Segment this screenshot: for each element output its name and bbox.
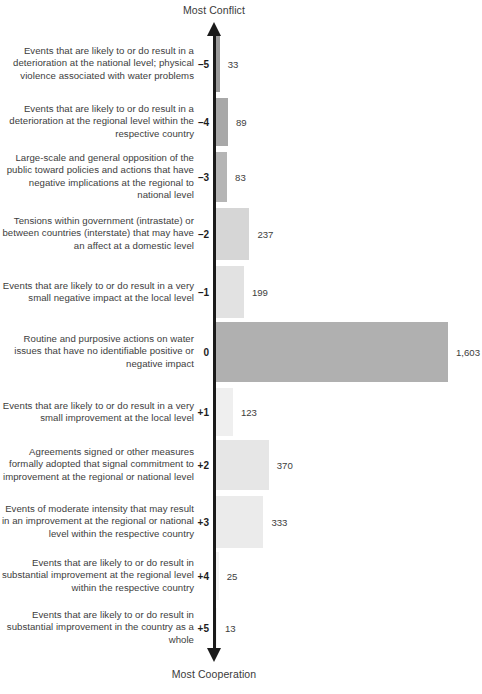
category-description: Tensions within government (intrastate) …: [0, 215, 194, 252]
arrow-up-icon: [207, 22, 221, 36]
bar-value-label: 199: [252, 287, 268, 298]
axis-tick-label: –1: [191, 287, 209, 298]
category-description: Events that are likely to or do result i…: [0, 45, 194, 82]
category-description: Events that are likely to or do result i…: [0, 557, 194, 594]
bar-segment: [215, 552, 219, 600]
category-description: Large-scale and general opposition of th…: [0, 152, 194, 202]
bar-value-label: 89: [236, 117, 247, 128]
bar-segment: [215, 208, 249, 260]
category-description: Events that are likely to or do result i…: [0, 280, 194, 305]
vertical-axis-line: [213, 34, 216, 654]
bar-segment: [215, 98, 228, 146]
bar-value-label: 370: [277, 460, 293, 471]
arrow-down-icon: [207, 648, 221, 662]
bar-segment: [215, 440, 269, 490]
axis-tick-label: +3: [191, 517, 209, 528]
axis-tick-label: +1: [191, 407, 209, 418]
bar-value-label: 123: [241, 407, 257, 418]
bar-segment: [215, 388, 233, 436]
bar-segment: [215, 36, 220, 92]
bar-value-label: 33: [228, 59, 239, 70]
category-description: Events that are likely to or do result i…: [0, 400, 194, 425]
axis-tick-label: +2: [191, 460, 209, 471]
category-description: Agreements signed or other measures form…: [0, 446, 194, 483]
category-description: Events of moderate intensity that may re…: [0, 503, 194, 540]
bar-value-label: 25: [227, 571, 238, 582]
axis-tick-label: –2: [191, 229, 209, 240]
category-description: Routine and purposive actions on water i…: [0, 333, 194, 370]
axis-tick-label: +5: [191, 623, 209, 634]
bar-segment: [215, 496, 263, 548]
bar-segment: [215, 152, 227, 202]
category-description: Events that are likely to or do result i…: [0, 103, 194, 140]
bar-value-label: 333: [271, 517, 287, 528]
category-description: Events that are likely to or do result i…: [0, 609, 194, 646]
bar-segment: [215, 322, 448, 382]
axis-tick-label: 0: [191, 347, 209, 358]
axis-tick-label: –3: [191, 172, 209, 183]
axis-tick-label: –4: [191, 117, 209, 128]
bar-value-label: 13: [225, 623, 236, 634]
axis-tick-label: –5: [191, 59, 209, 70]
axis-bottom-caption: Most Cooperation: [114, 668, 314, 680]
axis-tick-label: +4: [191, 571, 209, 582]
bar-segment: [215, 266, 244, 318]
bar-value-label: 83: [235, 172, 246, 183]
bar-value-label: 237: [257, 229, 273, 240]
bar-value-label: 1,603: [456, 347, 480, 358]
conflict-cooperation-bar-chart: Most Conflict Most Cooperation Events th…: [0, 0, 482, 694]
axis-top-caption: Most Conflict: [114, 4, 314, 16]
